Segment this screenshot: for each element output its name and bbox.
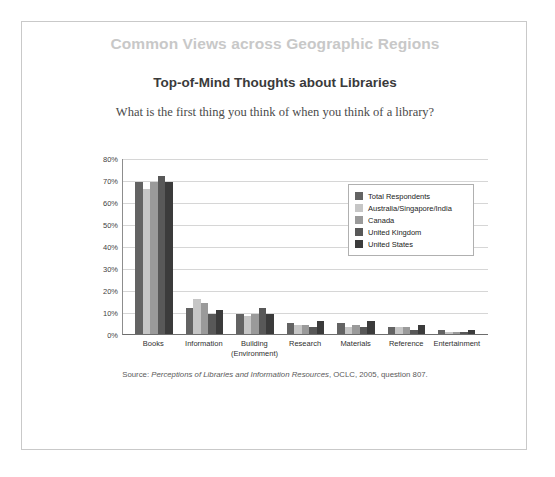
y-axis-tick-label: 30% [74,265,118,274]
source-suffix: , OCLC, 2005, question 807. [329,370,428,379]
section-title: Common Views across Geographic Regions [22,35,528,53]
bar[interactable] [438,330,446,334]
bar[interactable] [158,176,166,334]
chart-legend: Total RespondentsAustralia/Singapore/Ind… [348,184,474,256]
legend-label: Canada [368,216,394,225]
legend-item[interactable]: United Kingdom [355,226,466,238]
bar[interactable] [388,327,396,334]
bar[interactable] [150,182,158,334]
page-canvas: Common Views across Geographic Regions T… [0,0,555,477]
legend-item[interactable]: Australia/Singapore/India [355,202,466,214]
y-axis-tick-label: 70% [74,177,118,186]
bar[interactable] [345,327,353,334]
legend-label: Australia/Singapore/India [368,204,452,213]
bar-group [179,159,229,334]
legend-label: Total Respondents [368,192,430,201]
x-axis-label: Entertainment [431,339,482,359]
bar[interactable] [259,308,267,334]
chart-title: Top-of-Mind Thoughts about Libraries [22,75,528,90]
y-axis-tick-label: 10% [74,309,118,318]
legend-label: United States [368,240,413,249]
y-axis-tick-label: 50% [74,221,118,230]
x-axis-label: Research [280,339,331,359]
x-axis-label: Materials [330,339,381,359]
bar[interactable] [186,308,194,334]
legend-swatch-icon [355,192,363,200]
legend-item[interactable]: United States [355,238,466,250]
bar[interactable] [403,327,411,334]
legend-swatch-icon [355,216,363,224]
bar[interactable] [135,182,143,334]
x-axis-label: Building(Environment) [229,339,280,359]
bar[interactable] [236,314,244,334]
bar-group [280,159,330,334]
bar[interactable] [216,310,224,334]
bar[interactable] [143,189,151,334]
slide-frame: Common Views across Geographic Regions T… [21,21,527,450]
bar[interactable] [468,330,476,334]
bar[interactable] [201,303,209,334]
chart-plot: 0%10%20%30%40%50%60%70%80% BooksInformat… [70,153,490,368]
bar-group [129,159,179,334]
legend-item[interactable]: Canada [355,214,466,226]
x-axis-label: Information [179,339,230,359]
bar[interactable] [337,323,345,334]
bar[interactable] [352,325,360,334]
bar[interactable] [244,316,252,334]
bar[interactable] [165,182,173,334]
bar[interactable] [266,314,274,334]
bar[interactable] [287,323,295,334]
y-axis-tick-label: 80% [74,155,118,164]
source-prefix: Source: [122,370,149,379]
bar[interactable] [193,299,201,334]
chart-subtitle: What is the first thing you think of whe… [22,105,528,120]
legend-swatch-icon [355,204,363,212]
bar[interactable] [208,314,216,334]
bar[interactable] [395,327,403,334]
bar[interactable] [302,325,310,334]
legend-item[interactable]: Total Respondents [355,190,466,202]
bar[interactable] [317,321,325,334]
bar[interactable] [294,325,302,334]
bar[interactable] [309,327,317,334]
x-axis-labels: BooksInformationBuilding(Environment)Res… [122,339,488,359]
x-axis-label: Books [128,339,179,359]
y-axis-tick-label: 0% [74,331,118,340]
bar[interactable] [445,332,453,334]
bar[interactable] [410,330,418,334]
y-axis-tick-label: 40% [74,243,118,252]
source-note: Source: Perceptions of Libraries and Inf… [22,370,528,379]
bar[interactable] [360,327,368,334]
legend-label: United Kingdom [368,228,421,237]
bar[interactable] [251,314,259,334]
bar[interactable] [418,325,426,334]
y-axis-tick-label: 60% [74,199,118,208]
bar[interactable] [453,332,461,334]
legend-swatch-icon [355,228,363,236]
bar[interactable] [460,332,468,334]
legend-swatch-icon [355,240,363,248]
y-axis-tick-label: 20% [74,287,118,296]
bar-group [230,159,280,334]
x-axis-label: Reference [381,339,432,359]
source-title: Perceptions of Libraries and Information… [151,370,329,379]
bar[interactable] [367,321,375,334]
